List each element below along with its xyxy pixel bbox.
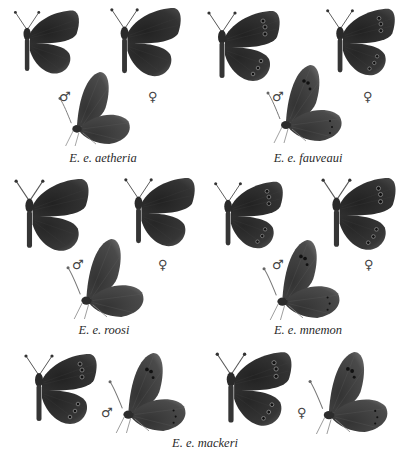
male-symbol: ♂ (59, 90, 71, 103)
female-symbol: ♀ (363, 90, 373, 103)
mackeri-male-upperside (20, 348, 100, 432)
female-symbol: ♀ (364, 258, 374, 271)
butterfly-plate: ♂ ♀ E. e. aetheria ♂ ♀ E. e. fauveaui ♂ … (0, 0, 409, 455)
caption-aetheria: E. e. aetheria (69, 152, 136, 165)
female-symbol: ♀ (148, 90, 158, 103)
caption-roosi: E. e. roosi (79, 324, 130, 337)
aetheria-underside (58, 66, 134, 150)
roosi-underside (66, 234, 148, 322)
mackeri-male-underside (108, 346, 190, 438)
male-symbol: ♂ (72, 258, 84, 271)
mackeri-female-upperside (210, 348, 296, 432)
caption-fauveaui: E. e. fauveaui (274, 152, 343, 165)
male-symbol: ♂ (272, 258, 284, 271)
caption-mnemon: E. e. mnemon (274, 324, 342, 337)
male-symbol: ♂ (272, 90, 284, 103)
mackeri-female-underside (308, 346, 392, 438)
female-symbol: ♀ (158, 258, 168, 271)
caption-mackeri: E. e. mackeri (172, 437, 238, 450)
female-symbol: ♀ (297, 406, 307, 419)
mnemon-underside (262, 234, 344, 324)
